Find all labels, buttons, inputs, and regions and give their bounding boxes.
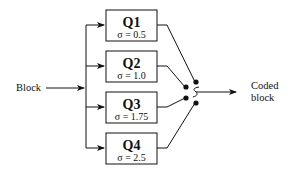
output-line-q3 [157,98,185,107]
quantizer-name: Q3 [123,97,141,112]
quantizer-sigma: σ = 1.75 [115,111,149,122]
quantizer-name: Q1 [123,15,141,30]
quantizer-box-q3: Q3 σ = 1.75 [106,92,157,123]
quantizer-sigma: σ = 1.0 [117,70,146,81]
switch-contact-q2 [183,84,188,89]
output-label-line2: block [251,92,275,103]
quantizer-box-q4: Q4 σ = 2.5 [106,133,157,164]
input-label: Block [16,82,42,93]
output-line-q4 [157,103,195,148]
output-label-line1: Coded [251,80,279,91]
quantizer-selection-diagram: Block Q1 σ = 0.5 Q2 σ = 1.0 Q3 σ = 1.75 … [0,0,290,175]
quantizer-box-q2: Q2 σ = 1.0 [106,51,157,82]
quantizer-sigma: σ = 0.5 [117,29,146,40]
quantizer-name: Q4 [123,138,141,153]
switch-contact-q4 [193,100,198,105]
output-line-q2 [157,66,185,87]
quantizer-box-q1: Q1 σ = 0.5 [106,10,157,41]
switch-contact-q1 [193,79,198,84]
quantizer-name: Q2 [123,56,141,71]
quantizer-sigma: σ = 2.5 [117,152,146,163]
output-line-q1 [157,25,195,82]
switch-contact-q3 [183,95,188,100]
